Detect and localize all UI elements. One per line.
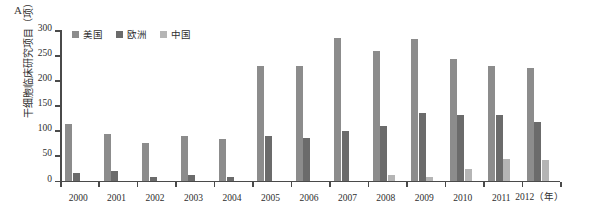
x-tick-label: 2003 [184,193,203,203]
bar-eu-2007 [342,131,349,180]
y-tick-mark [55,130,60,132]
bar-eu-2005 [265,136,272,180]
x-tick-mark [522,182,524,187]
y-axis-title: 干细胞临床研究项目（项） [20,0,35,133]
bar-us-2003 [181,136,188,180]
x-tick-label: 2000 [69,193,88,203]
bar-eu-2003 [188,175,195,180]
y-tick-mark [55,105,60,107]
bar-us-2007 [334,38,341,181]
y-tick-label: 300 [38,23,52,33]
x-tick-mark [137,182,139,187]
x-tick-mark [329,182,331,187]
y-tick-mark [55,80,60,82]
x-tick-label: 2010 [453,193,472,203]
y-tick-mark [55,155,60,157]
x-tick-mark [445,182,447,187]
y-tick-label: 100 [38,123,52,133]
bar-us-2009 [411,39,418,180]
y-tick-mark [55,55,60,57]
bar-eu-2002 [150,177,157,181]
bar-cn-2012 [542,160,549,180]
bar-eu-2000 [73,173,80,181]
x-tick-mark [406,182,408,187]
bar-us-2008 [373,51,380,180]
plot-area: 050100150200250300 200020012002200320042… [60,30,560,182]
x-axis-line [60,181,560,183]
bar-us-2001 [104,134,111,181]
x-tick-label: 2011 [492,193,511,203]
bar-us-2004 [219,139,226,180]
x-tick-mark [60,182,62,187]
x-tick-label: 2004 [223,193,242,203]
x-tick-label: 2007 [338,193,357,203]
bar-cn-2008 [388,175,395,180]
bar-eu-2004 [227,177,234,181]
bar-us-2012 [527,68,534,181]
x-tick-label: 2012（年） [515,189,564,203]
y-tick-label: 0 [47,174,52,184]
bar-eu-2008 [380,126,387,180]
x-tick-mark [252,182,254,187]
y-tick-mark [55,30,60,32]
x-tick-label: 2005 [261,193,280,203]
bar-us-2002 [142,143,149,181]
x-tick-label: 2001 [107,193,126,203]
y-tick-label: 250 [38,48,52,58]
x-tick-label: 2008 [376,193,395,203]
x-tick-mark [560,182,562,187]
x-tick-label: 2006 [299,193,318,203]
bar-eu-2001 [111,171,118,180]
x-tick-mark [98,182,100,187]
bar-eu-2010 [457,115,464,180]
bar-eu-2009 [419,113,426,181]
x-tick-mark [175,182,177,187]
chart-figure: A 干细胞临床研究项目（项） 美国欧洲中国 050100150200250300… [0,0,590,216]
bar-eu-2012 [534,122,541,181]
bar-cn-2010 [465,169,472,181]
bar-cn-2009 [426,177,433,181]
bar-us-2006 [296,66,303,180]
y-tick-label: 50 [43,148,53,158]
y-tick-label: 150 [38,98,52,108]
bar-eu-2006 [303,138,310,181]
bar-us-2000 [65,124,72,181]
y-tick-label: 200 [38,73,52,83]
x-tick-label: 2009 [415,193,434,203]
x-tick-mark [483,182,485,187]
y-axis-line [60,30,62,182]
bar-us-2005 [257,66,264,180]
x-tick-mark [214,182,216,187]
bar-cn-2011 [503,159,510,181]
x-tick-mark [291,182,293,187]
bar-eu-2011 [496,115,503,180]
bar-us-2011 [488,66,495,180]
x-tick-label: 2002 [146,193,165,203]
x-tick-mark [368,182,370,187]
bar-us-2010 [450,59,457,181]
